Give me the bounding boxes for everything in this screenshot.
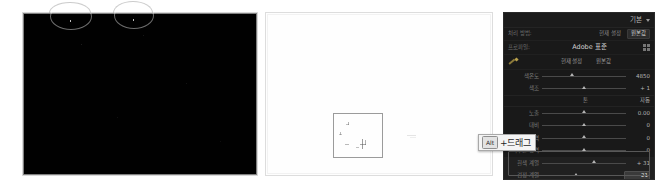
slider-row-tint[interactable]: 색조 + 1 — [504, 83, 654, 96]
chevron-down-icon[interactable] — [646, 19, 650, 22]
profile-row: 프로파일: Adobe 표준 — [504, 41, 654, 55]
slider-label-tint: 색조 — [508, 86, 542, 92]
process-method-label: 처리 방법: — [508, 31, 544, 37]
slider-value-shadows[interactable]: 0 — [626, 148, 650, 154]
star-speck — [143, 35, 144, 36]
slider-track-whites[interactable] — [542, 157, 626, 169]
slider-track-highlights[interactable] — [542, 132, 626, 144]
camera-raw-basic-panel: 기본 처리 방법: 현재 설정 원본값 프로파일: Adobe 표준 현재 설정… — [503, 12, 655, 180]
star-speck — [220, 141, 221, 142]
slider-value-tint[interactable]: + 1 — [626, 86, 650, 92]
slider-thumb-tint[interactable] — [582, 86, 586, 89]
slider-value-whites[interactable]: + 31 — [626, 161, 650, 167]
process-method-row: 처리 방법: 현재 설정 원본값 — [504, 28, 654, 41]
screenshot-stage: 기본 처리 방법: 현재 설정 원본값 프로파일: Adobe 표준 현재 설정… — [0, 0, 664, 188]
star-speck — [81, 44, 82, 45]
image-smudge — [407, 135, 416, 136]
tone-section-header: 톤 자동 — [504, 95, 654, 107]
wb-label-current: 현재 설정 — [561, 59, 583, 65]
image-smudge — [410, 137, 416, 138]
slider-label-whites: 흰색 계열 — [508, 161, 542, 167]
overexposed-white-preview[interactable] — [265, 12, 493, 176]
ellipse-annotation-1-top — [49, 2, 91, 13]
slider-thumb-whites[interactable] — [592, 160, 596, 163]
underexposed-black-preview[interactable] — [22, 12, 258, 176]
tone-section-title: 톤 — [530, 98, 640, 104]
star-speck — [186, 83, 187, 84]
image-mark — [339, 134, 342, 135]
slider-row-whites[interactable]: 흰색 계열 + 31 — [504, 157, 654, 170]
slider-row-exposure[interactable]: 노출 0.00 — [504, 107, 654, 120]
image-mark — [356, 147, 359, 148]
slider-row-temperature[interactable]: 색온도 4850 — [504, 70, 654, 83]
slider-track-blacks[interactable] — [542, 170, 624, 180]
slider-track-tint[interactable] — [542, 83, 626, 95]
image-mark — [365, 140, 366, 145]
slider-thumb-exposure[interactable] — [582, 110, 586, 113]
panel-titlebar: 기본 — [504, 13, 654, 28]
slider-label-contrast: 대비 — [508, 123, 542, 129]
slider-label-blacks: 검정 계열 — [508, 173, 542, 179]
ellipse-center-dot — [133, 19, 134, 21]
alt-drag-tooltip-text: +드래그 — [500, 136, 531, 149]
slider-value-contrast[interactable]: 0 — [626, 123, 650, 129]
slider-thumb-temperature[interactable] — [570, 73, 574, 76]
process-tab-current[interactable]: 현재 설정 — [596, 30, 624, 38]
image-mark — [346, 124, 349, 125]
slider-thumb-highlights[interactable] — [582, 135, 586, 138]
grid-icon[interactable] — [643, 44, 650, 51]
slider-value-exposure[interactable]: 0.00 — [626, 111, 650, 117]
slider-track-shadows[interactable] — [542, 145, 626, 157]
wb-label-original: 원본값 — [596, 59, 611, 65]
profile-value[interactable]: Adobe 표준 — [536, 44, 643, 51]
process-tab-original[interactable]: 원본값 — [627, 29, 650, 39]
slider-row-contrast[interactable]: 대비 0 — [504, 120, 654, 133]
slider-thumb-blacks[interactable] — [574, 173, 578, 176]
slider-label-exposure: 노출 — [508, 111, 542, 117]
eyedropper-icon[interactable] — [508, 57, 518, 67]
white-balance-toolstrip: 현재 설정 원본값 — [504, 55, 654, 70]
image-mark — [345, 144, 349, 145]
preview-inner-edge — [23, 13, 257, 175]
slider-label-temperature: 색온도 — [508, 74, 542, 80]
alt-drag-tooltip: Alt +드래그 — [478, 134, 536, 151]
slider-value-temperature[interactable]: 4850 — [626, 74, 650, 80]
slider-row-blacks[interactable]: 검정 계열 − 21 — [504, 170, 654, 181]
slider-thumb-contrast[interactable] — [582, 123, 586, 126]
panel-title: 기본 — [630, 17, 642, 24]
slider-thumb-shadows[interactable] — [582, 148, 586, 151]
ellipse-center-dot — [70, 20, 71, 22]
crop-selection-rectangle[interactable] — [333, 113, 383, 158]
tone-auto-button[interactable]: 자동 — [640, 98, 650, 104]
slider-value-blacks[interactable]: − 21 — [624, 171, 650, 180]
slider-track-exposure[interactable] — [542, 107, 626, 119]
star-speck — [117, 117, 118, 118]
ellipse-annotation-2-top — [113, 1, 153, 13]
slider-value-highlights[interactable]: 0 — [626, 136, 650, 142]
slider-track-temperature[interactable] — [542, 70, 626, 82]
alt-keycap: Alt — [482, 136, 498, 149]
white-balance-labels: 현재 설정 원본값 — [522, 59, 650, 65]
slider-track-contrast[interactable] — [542, 120, 626, 132]
